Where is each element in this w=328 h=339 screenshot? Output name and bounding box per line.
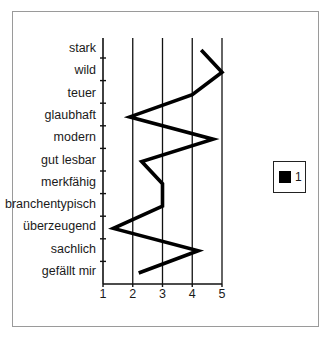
category-label: glaubhaft <box>45 108 97 122</box>
x-tick-label: 4 <box>189 287 196 301</box>
legend-swatch <box>279 171 291 183</box>
x-tick-label: 3 <box>159 287 166 301</box>
x-tick-label: 2 <box>129 287 136 301</box>
category-label: sachlich <box>51 242 96 256</box>
legend-label: 1 <box>295 170 302 184</box>
x-tick-label: 1 <box>100 287 107 301</box>
category-label: teuer <box>68 86 97 100</box>
category-label: branchentypisch <box>5 197 96 211</box>
category-label: gefällt mir <box>42 264 96 278</box>
series-line-1 <box>113 50 222 273</box>
legend: 1 <box>273 161 306 193</box>
category-label: merkfähig <box>41 175 96 189</box>
category-label: überzeugend <box>23 219 96 233</box>
category-label: gut lesbar <box>41 153 96 167</box>
x-tick-label: 5 <box>219 287 226 301</box>
category-label: wild <box>73 63 96 77</box>
category-label: modern <box>54 130 96 144</box>
category-label: stark <box>69 41 97 55</box>
